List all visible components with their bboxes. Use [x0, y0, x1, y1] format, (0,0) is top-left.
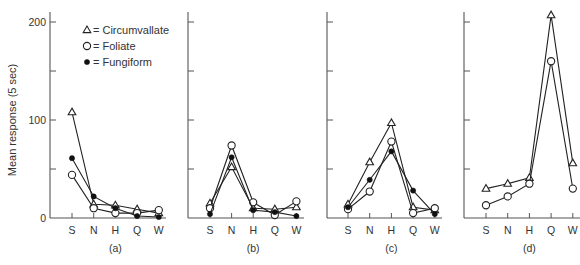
filled-circle-marker — [207, 211, 212, 216]
x-tick-label: S — [68, 224, 75, 236]
legend: = Circumvallate= Foliate= Fungiform — [83, 24, 169, 68]
open-circle-marker — [526, 180, 533, 187]
triangle-marker — [68, 108, 76, 115]
filled-circle-marker — [345, 205, 350, 210]
series-line-fungiform — [348, 151, 435, 214]
legend-item-fungiform: = Fungiform — [84, 56, 152, 68]
filled-circle-marker — [411, 188, 416, 193]
open-circle-marker — [228, 142, 235, 149]
filled-circle-marker — [156, 214, 161, 219]
series-line-circumvallate — [486, 15, 573, 188]
series-line-circumvallate — [348, 123, 435, 210]
legend-label: = Fungiform — [93, 56, 152, 68]
panel-caption: (c) — [385, 242, 397, 254]
legend-item-circumvallate: = Circumvallate — [83, 24, 169, 36]
filled-circle-marker — [113, 206, 118, 211]
x-tick-label: W — [154, 224, 164, 236]
open-circle-marker — [90, 205, 97, 212]
filled-circle-marker — [432, 211, 437, 216]
open-circle-marker — [548, 58, 555, 65]
x-tick-label: S — [206, 224, 213, 236]
x-tick-label: Q — [133, 224, 141, 236]
filled-circle-marker — [135, 213, 140, 218]
panel-c: SNHQW(c) — [327, 12, 442, 254]
x-tick-label: H — [388, 224, 396, 236]
legend-label: = Foliate — [93, 40, 136, 52]
filled-circle-marker — [69, 156, 74, 161]
open-circle-marker — [388, 138, 395, 145]
triangle-marker — [83, 26, 91, 33]
y-tick-label: 200 — [28, 16, 46, 28]
y-tick-label: 100 — [28, 114, 46, 126]
filled-circle-marker — [251, 208, 256, 213]
open-circle-marker — [83, 42, 90, 49]
legend-item-foliate: = Foliate — [83, 40, 135, 52]
x-tick-label: S — [482, 224, 489, 236]
filled-circle-marker — [367, 177, 372, 182]
open-circle-marker — [293, 198, 300, 205]
taste-response-chart: 0100200SNHQW(a)SNHQW(b)SNHQW(c)SNHQW(d) … — [0, 0, 580, 265]
x-tick-label: W — [430, 224, 440, 236]
triangle-marker — [388, 119, 396, 126]
panel-caption: (d) — [523, 242, 536, 254]
series-line-circumvallate — [72, 112, 159, 213]
panel-caption: (a) — [109, 242, 122, 254]
open-circle-marker — [482, 202, 489, 209]
open-circle-marker — [155, 207, 162, 214]
panel-d: SNHQW(d) — [464, 11, 580, 254]
open-circle-marker — [366, 188, 373, 195]
filled-circle-marker — [272, 210, 277, 215]
open-circle-marker — [68, 171, 75, 178]
triangle-marker — [366, 158, 374, 165]
legend-label: = Circumvallate — [93, 24, 169, 36]
x-tick-label: H — [526, 224, 534, 236]
filled-circle-marker — [91, 194, 96, 199]
triangle-marker — [526, 174, 534, 181]
y-tick-label: 0 — [40, 212, 46, 224]
triangle-marker — [547, 11, 555, 18]
x-tick-label: W — [291, 224, 301, 236]
x-tick-label: Q — [409, 224, 417, 236]
x-tick-label: N — [90, 224, 98, 236]
y-axis-label: Mean response (5 sec) — [6, 64, 18, 177]
x-tick-label: N — [228, 224, 236, 236]
filled-circle-marker — [229, 155, 234, 160]
triangle-marker — [569, 159, 577, 166]
panel-caption: (b) — [247, 242, 260, 254]
filled-circle-marker — [389, 149, 394, 154]
x-tick-label: H — [112, 224, 120, 236]
x-tick-label: S — [344, 224, 351, 236]
x-tick-label: N — [366, 224, 374, 236]
x-tick-label: Q — [271, 224, 279, 236]
open-circle-marker — [410, 210, 417, 217]
filled-circle-marker — [84, 59, 89, 64]
x-tick-label: N — [504, 224, 512, 236]
open-circle-marker — [569, 185, 576, 192]
x-tick-label: Q — [547, 224, 555, 236]
open-circle-marker — [504, 193, 511, 200]
panel-b: SNHQW(b) — [188, 12, 304, 254]
x-tick-label: W — [568, 224, 578, 236]
filled-circle-marker — [294, 213, 299, 218]
x-tick-label: H — [249, 224, 257, 236]
